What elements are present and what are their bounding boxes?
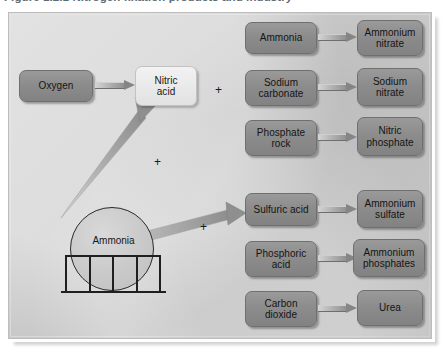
node-product-2[interactable]: Nitric phosphate xyxy=(357,117,423,156)
arrow-shaft xyxy=(318,305,347,312)
node-product-2-line2: phosphate xyxy=(366,137,413,149)
arrow-row-3 xyxy=(318,204,357,215)
tank-base-beam xyxy=(61,291,166,293)
node-nitric-acid-label-line1: Nitric xyxy=(154,75,177,87)
node-nitric-acid[interactable]: Nitric acid xyxy=(135,66,197,106)
arrow-head xyxy=(346,303,357,313)
node-nitric-acid-label-line2: acid xyxy=(157,86,176,98)
node-product-0-line2: nitrate xyxy=(376,38,404,50)
arrow-row-5 xyxy=(318,303,357,314)
node-reactant-2[interactable]: Phosphate rock xyxy=(245,120,317,156)
tank-label: Ammonia xyxy=(61,235,166,246)
node-reactant-4-line1: Phosphoric xyxy=(256,248,307,260)
node-product-4-line2: phosphates xyxy=(363,258,415,270)
node-reactant-5[interactable]: Carbon dioxide xyxy=(245,291,317,327)
node-oxygen[interactable]: Oxygen xyxy=(19,70,93,102)
tank-leg xyxy=(159,256,161,292)
node-reactant-0-line1: Ammonia xyxy=(260,32,303,44)
arrow-shaft xyxy=(318,134,347,141)
node-product-0[interactable]: Ammonium nitrate xyxy=(357,20,423,56)
plus-sign-nitric-acid-row: + xyxy=(215,84,222,96)
node-product-0-line1: Ammonium xyxy=(365,27,416,39)
arrow-ammonia-to-nitric-acid xyxy=(61,97,155,218)
node-product-5[interactable]: Urea xyxy=(357,290,423,326)
arrow-shaft xyxy=(318,84,347,91)
figure-caption: Figure 1.2.1 Nitrogen fixation products … xyxy=(4,0,292,3)
arrow-row-2 xyxy=(318,132,357,143)
node-reactant-5-line1: Carbon xyxy=(264,298,297,310)
node-reactant-1-line1: Sodium xyxy=(264,77,298,89)
plus-sign-ammonia-to-sulfuric: + xyxy=(200,221,207,233)
node-reactant-5-line2: dioxide xyxy=(265,309,297,321)
tank-leg xyxy=(136,256,138,292)
arrow-row-4 xyxy=(318,253,357,264)
arrow-shaft xyxy=(318,206,347,213)
arrow-shaft xyxy=(95,82,125,89)
tank-leg xyxy=(65,256,67,292)
node-oxygen-label: Oxygen xyxy=(39,80,74,92)
node-reactant-1[interactable]: Sodium carbonate xyxy=(245,70,317,106)
node-reactant-1-line2: carbonate xyxy=(259,88,304,100)
node-product-3[interactable]: Ammonium sulfate xyxy=(357,190,423,228)
node-product-1-line2: nitrate xyxy=(376,87,404,99)
node-product-2-line1: Nitric xyxy=(378,125,401,137)
arrow-row-0 xyxy=(318,32,357,43)
arrow-head xyxy=(346,204,357,214)
arrow-shaft xyxy=(318,34,347,41)
node-reactant-3[interactable]: Sulfuric acid xyxy=(245,193,317,226)
tank-leg xyxy=(112,256,114,292)
arrow-head xyxy=(346,132,357,142)
node-reactant-3-line1: Sulfuric acid xyxy=(253,204,308,216)
tank-leg xyxy=(89,256,91,292)
arrow-head xyxy=(346,32,357,42)
ammonia-storage-tank[interactable]: Ammonia xyxy=(61,207,166,295)
node-reactant-0[interactable]: Ammonia xyxy=(245,22,317,54)
arrow-oxygen-to-nitric-acid xyxy=(95,80,135,91)
arrow-row-1 xyxy=(318,82,357,93)
node-product-5-line1: Urea xyxy=(379,302,401,314)
node-product-4[interactable]: Ammonium phosphates xyxy=(353,239,425,277)
figure-caption-strip: Figure 1.2.1 Nitrogen fixation products … xyxy=(0,0,445,11)
node-product-1-line1: Sodium xyxy=(373,76,407,88)
node-product-3-line2: sulfate xyxy=(375,209,405,221)
node-product-1[interactable]: Sodium nitrate xyxy=(357,68,423,106)
node-product-4-line1: Ammonium xyxy=(364,247,415,259)
node-product-3-line1: Ammonium xyxy=(365,198,416,210)
node-reactant-4[interactable]: Phosphoric acid xyxy=(245,241,317,277)
node-reactant-2-line2: rock xyxy=(271,138,290,150)
node-reactant-2-line1: Phosphate xyxy=(257,127,305,139)
arrow-head xyxy=(124,80,135,90)
node-reactant-4-line2: acid xyxy=(272,259,291,271)
arrow-shaft xyxy=(318,255,347,262)
arrow-head xyxy=(346,82,357,92)
plus-sign-ammonia-to-nitric: + xyxy=(154,156,161,168)
figure-panel: Oxygen Nitric acid + + + Ammonia Ammonia… xyxy=(8,12,432,339)
